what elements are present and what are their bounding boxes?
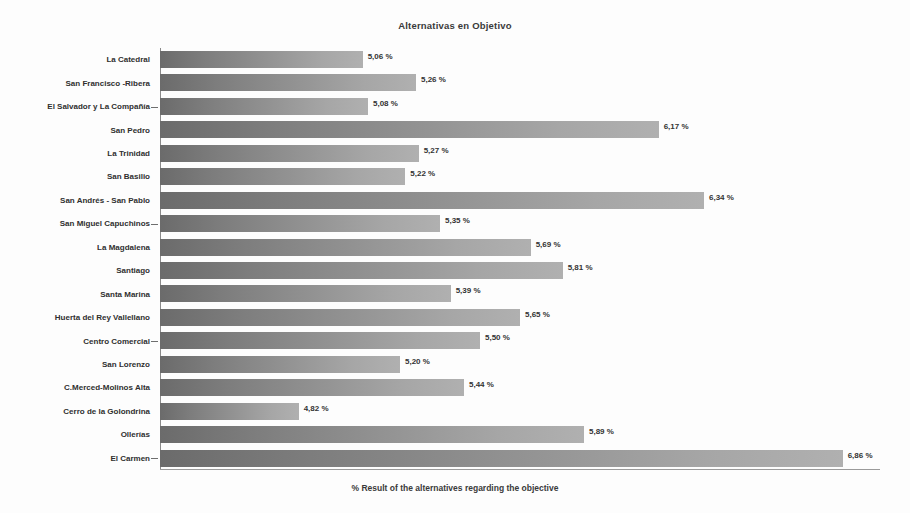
bar-value-label: 5,06 % xyxy=(368,52,393,61)
y-axis-tick-label: San Miguel Capuchinos xyxy=(60,212,150,235)
y-axis-tick-label: La Catedral xyxy=(106,48,150,71)
bar-value-label: 5,35 % xyxy=(445,216,470,225)
bar-row: 6,17 % xyxy=(160,118,880,141)
bar[interactable] xyxy=(160,262,563,279)
y-axis-tick-label: El Salvador y La Compañía xyxy=(47,95,150,118)
bar-value-label: 6,86 % xyxy=(848,451,873,460)
y-axis-tick-label: C.Merced-Molinos Alta xyxy=(64,376,150,399)
y-axis-tick-label: San Basilio xyxy=(107,165,150,188)
bar[interactable] xyxy=(160,450,843,467)
y-axis-tick-label: Centro Comercial xyxy=(83,329,150,352)
bar-value-label: 6,34 % xyxy=(709,193,734,202)
y-axis-tick-label: Santa Marina xyxy=(100,282,150,305)
bar-value-label: 5,22 % xyxy=(410,169,435,178)
y-axis-tick-mark xyxy=(151,224,158,225)
bar-value-label: 4,82 % xyxy=(304,404,329,413)
bar-row: 5,20 % xyxy=(160,353,880,376)
y-axis-tick-label: Santiago xyxy=(116,259,150,282)
bar[interactable] xyxy=(160,332,480,349)
y-axis-tick-mark xyxy=(151,107,158,108)
bar-row: 5,81 % xyxy=(160,259,880,282)
bar-row: 4,82 % xyxy=(160,400,880,423)
y-axis-tick-label: La Trinidad xyxy=(107,142,150,165)
y-axis-labels: La CatedralSan Francisco -RiberaEl Salva… xyxy=(0,48,158,470)
bar[interactable] xyxy=(160,215,440,232)
bar[interactable] xyxy=(160,239,531,256)
chart-title: Alternativas en Objetivo xyxy=(0,20,910,31)
bar[interactable] xyxy=(160,168,405,185)
y-axis-tick-label: San Andrés - San Pablo xyxy=(60,189,150,212)
bar-value-label: 5,20 % xyxy=(405,357,430,366)
bar-value-label: 5,26 % xyxy=(421,75,446,84)
bar-value-label: 5,50 % xyxy=(485,333,510,342)
bar-value-label: 5,65 % xyxy=(525,310,550,319)
bar-row: 6,86 % xyxy=(160,447,880,470)
plot-area: 5,06 %5,26 %5,08 %6,17 %5,27 %5,22 %6,34… xyxy=(160,48,880,470)
bar-row: 5,50 % xyxy=(160,329,880,352)
bar-row: 5,06 % xyxy=(160,48,880,71)
bar[interactable] xyxy=(160,145,419,162)
y-axis-tick-label: San Pedro xyxy=(110,118,150,141)
bar-row: 5,27 % xyxy=(160,142,880,165)
bar[interactable] xyxy=(160,379,464,396)
chart-container: Alternativas en Objetivo La CatedralSan … xyxy=(0,0,910,513)
bar-row: 5,44 % xyxy=(160,376,880,399)
bar[interactable] xyxy=(160,98,368,115)
bar[interactable] xyxy=(160,403,299,420)
y-axis-tick-label: Cerro de la Golondrina xyxy=(63,400,150,423)
x-axis-title: % Result of the alternatives regarding t… xyxy=(0,483,910,493)
bar-value-label: 6,17 % xyxy=(664,122,689,131)
bar-row: 5,39 % xyxy=(160,282,880,305)
bar[interactable] xyxy=(160,356,400,373)
bar-row: 5,65 % xyxy=(160,306,880,329)
y-axis-tick-mark xyxy=(151,458,158,459)
y-axis-tick-label: Huerta del Rey Vallellano xyxy=(55,306,150,329)
bar-value-label: 5,81 % xyxy=(568,263,593,272)
bar[interactable] xyxy=(160,121,659,138)
bar-row: 5,22 % xyxy=(160,165,880,188)
bar[interactable] xyxy=(160,309,520,326)
bar-row: 5,89 % xyxy=(160,423,880,446)
y-axis-tick-label: San Lorenzo xyxy=(102,353,150,376)
y-axis-tick-label: La Magdalena xyxy=(97,236,150,259)
bar-row: 5,26 % xyxy=(160,71,880,94)
bar-value-label: 5,27 % xyxy=(424,146,449,155)
bar[interactable] xyxy=(160,192,704,209)
y-axis-tick-label: El Carmen xyxy=(110,447,150,470)
bar-value-label: 5,08 % xyxy=(373,99,398,108)
bar[interactable] xyxy=(160,426,584,443)
bar[interactable] xyxy=(160,285,451,302)
bar-row: 5,08 % xyxy=(160,95,880,118)
y-axis-tick-mark xyxy=(151,341,158,342)
bars-group: 5,06 %5,26 %5,08 %6,17 %5,27 %5,22 %6,34… xyxy=(160,48,880,470)
bar-row: 6,34 % xyxy=(160,189,880,212)
bar-row: 5,69 % xyxy=(160,236,880,259)
bar[interactable] xyxy=(160,74,416,91)
y-axis-tick-label: San Francisco -Ribera xyxy=(66,71,150,94)
bar-row: 5,35 % xyxy=(160,212,880,235)
bar-value-label: 5,39 % xyxy=(456,286,481,295)
bar-value-label: 5,44 % xyxy=(469,380,494,389)
bar-value-label: 5,69 % xyxy=(536,240,561,249)
bar[interactable] xyxy=(160,51,363,68)
y-axis-tick-label: Ollerías xyxy=(121,423,150,446)
bar-value-label: 5,89 % xyxy=(589,427,614,436)
